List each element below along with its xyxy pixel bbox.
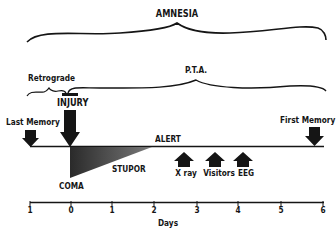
retrograde-label: Retrograde bbox=[28, 73, 75, 83]
eeg-arrow-icon bbox=[233, 152, 253, 167]
axis-tick-label: 5 bbox=[278, 205, 283, 215]
pta-brace bbox=[68, 80, 326, 93]
axis-tick-label: 3 bbox=[194, 205, 199, 215]
axis-tick-label: 6 bbox=[320, 205, 325, 215]
retrograde-brace bbox=[27, 88, 66, 96]
stupor-label: STUPOR bbox=[112, 164, 146, 174]
amnesia-label: AMNESIA bbox=[156, 8, 198, 19]
injury-marker-bar bbox=[62, 93, 78, 96]
xray-arrow-icon bbox=[174, 152, 194, 167]
pta-label: P.T.A. bbox=[185, 65, 207, 75]
last-memory-label: Last Memory bbox=[6, 117, 60, 127]
axis-tick-label: 1 bbox=[109, 205, 114, 215]
event-label-xray: X ray bbox=[175, 168, 196, 178]
axis-tick-label: 0 bbox=[68, 205, 73, 215]
amnesia-brace bbox=[27, 23, 326, 42]
coma-label: COMA bbox=[59, 181, 84, 191]
axis-tick-label: 1 bbox=[27, 205, 32, 215]
injury-label: INJURY bbox=[57, 97, 88, 108]
axis-tick-label: 2 bbox=[151, 205, 156, 215]
last-memory-arrow-icon bbox=[22, 130, 39, 147]
event-label-eeg: EEG bbox=[238, 168, 254, 178]
event-label-visitors: Visitors bbox=[203, 168, 235, 178]
alert-label: ALERT bbox=[155, 134, 181, 144]
injury-arrow-icon bbox=[60, 110, 80, 147]
first-memory-arrow-icon bbox=[305, 127, 324, 146]
axis-title-days: Days bbox=[158, 218, 178, 228]
axis-tick-label: 4 bbox=[235, 205, 240, 215]
visitors-arrow-icon bbox=[205, 152, 225, 167]
first-memory-label: First Memory bbox=[280, 115, 335, 125]
